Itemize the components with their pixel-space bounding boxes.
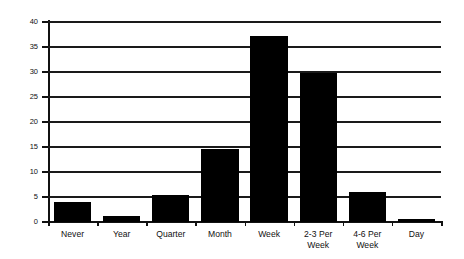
x-tick-mark (245, 221, 247, 226)
x-tick-mark (97, 221, 99, 226)
gridline (48, 171, 441, 173)
x-tick-mark (441, 221, 443, 226)
gridline (48, 21, 441, 23)
y-tick-label: 0 (18, 218, 38, 226)
y-tick-label: 30 (18, 68, 38, 76)
bar-chart: Percent Married 0510152025303540 NeverYe… (0, 0, 464, 259)
gridline (48, 121, 441, 123)
y-tick-label: 10 (18, 168, 38, 176)
bar (201, 149, 238, 222)
x-tick-label: 4-6 Per Week (343, 229, 392, 251)
x-tick-label: Day (392, 229, 441, 240)
bar (300, 73, 337, 222)
x-tick-mark (195, 221, 197, 226)
gridline (48, 146, 441, 148)
bar (250, 36, 287, 222)
x-tick-mark (294, 221, 296, 226)
y-tick-label: 5 (18, 193, 38, 201)
x-tick-label: Quarter (146, 229, 195, 240)
bar (398, 219, 435, 223)
gridline (48, 46, 441, 48)
x-tick-mark (146, 221, 148, 226)
x-tick-mark (343, 221, 345, 226)
x-tick-label: Never (48, 229, 97, 240)
y-tick-label: 35 (18, 43, 38, 51)
plot-area (48, 22, 441, 222)
x-tick-label: 2-3 Per Week (294, 229, 343, 251)
y-tick-label: 40 (18, 18, 38, 26)
y-tick-label: 20 (18, 118, 38, 126)
bar (349, 192, 386, 222)
y-tick-label: 25 (18, 93, 38, 101)
gridline (48, 96, 441, 98)
bar (152, 195, 189, 222)
x-tick-label: Week (245, 229, 294, 240)
x-tick-mark (48, 221, 50, 226)
x-tick-mark (392, 221, 394, 226)
gridline (48, 71, 441, 73)
bar (54, 202, 91, 222)
x-tick-label: Month (195, 229, 244, 240)
bar (103, 216, 140, 223)
x-tick-label: Year (97, 229, 146, 240)
y-tick-label: 15 (18, 143, 38, 151)
